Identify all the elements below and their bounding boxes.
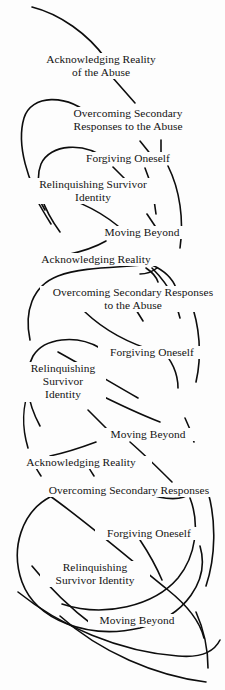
stage-label-c2-acknowledging: Acknowledging Reality (25, 253, 167, 266)
recovery-spiral-figure: Acknowledging Reality of the AbuseOverco… (0, 0, 225, 690)
stage-label-layer: Acknowledging Reality of the AbuseOverco… (0, 0, 225, 690)
stage-label-c3-acknowledging: Acknowledging Reality (10, 456, 152, 469)
stage-label-c2-relinquishing: Relinquishing Survivor Identity (20, 362, 106, 402)
stage-label-c2-moving: Moving Beyond (99, 428, 197, 441)
stage-label-c1-moving: Moving Beyond (93, 226, 191, 239)
stage-label-c1-relinquishing: Relinquishing Survivor Identity (20, 178, 166, 204)
stage-label-c1-overcoming: Overcoming Secondary Responses to the Ab… (52, 107, 204, 133)
stage-label-c3-relinquishing: Relinquishing Survivor Identity (40, 561, 150, 587)
stage-label-c2-overcoming: Overcoming Secondary Responses to the Ab… (40, 286, 225, 312)
stage-label-c2-forgiving: Forgiving Oneself (98, 346, 206, 359)
stage-label-c3-overcoming: Overcoming Secondary Responses (33, 484, 225, 497)
stage-label-c3-moving: Moving Beyond (88, 614, 186, 627)
stage-label-c3-forgiving: Forgiving Oneself (95, 527, 203, 540)
stage-label-c1-forgiving: Forgiving Oneself (74, 152, 182, 165)
stage-label-c1-acknowledging: Acknowledging Reality of the Abuse (27, 53, 175, 79)
